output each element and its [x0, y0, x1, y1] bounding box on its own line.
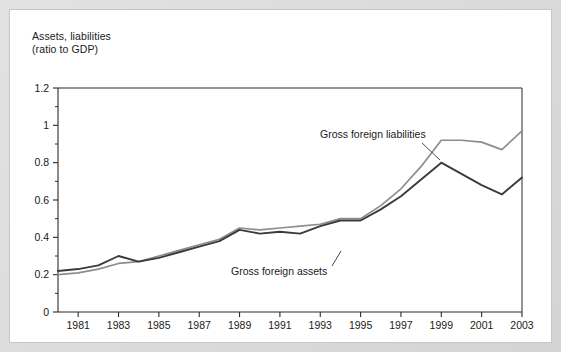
x-tick-label: 1993 — [309, 319, 333, 331]
x-tick-label: 1989 — [228, 319, 252, 331]
x-axis-ticks — [78, 312, 522, 317]
series-line-gross-foreign-liabilities — [58, 131, 522, 275]
x-tick-label: 1981 — [66, 319, 90, 331]
x-tick-label: 1987 — [188, 319, 212, 331]
y-tick-label: 1.2 — [34, 82, 49, 94]
y-tick-label: 1 — [43, 119, 49, 131]
x-tick-label: 2003 — [510, 319, 534, 331]
y-tick-label: 0.6 — [34, 194, 49, 206]
line-chart: 00.20.40.60.811.2 1981198319851987198919… — [10, 10, 551, 342]
annotation-leader-assets — [332, 251, 341, 266]
figure-card: Assets, liabilities(ratio to GDP) 00.20.… — [10, 10, 551, 342]
y-tick-label: 0.8 — [34, 156, 49, 168]
x-tick-label: 2001 — [470, 319, 494, 331]
annotation-label-gross-foreign-liabilities: Gross foreign liabilities — [320, 128, 426, 140]
x-tick-label: 1991 — [268, 319, 292, 331]
series-line-gross-foreign-assets — [58, 163, 522, 271]
y-tick-label: 0.4 — [34, 231, 49, 243]
y-axis-tick-labels: 00.20.40.60.811.2 — [34, 82, 49, 318]
x-tick-label: 1995 — [349, 319, 373, 331]
x-tick-label: 1997 — [389, 319, 413, 331]
y-axis-major-ticks — [53, 88, 58, 312]
y-tick-label: 0.2 — [34, 268, 49, 280]
x-tick-label: 1983 — [107, 319, 131, 331]
x-axis-tick-labels: 1981198319851987198919911993199519971999… — [66, 319, 533, 331]
y-tick-label: 0 — [43, 306, 49, 318]
x-tick-label: 1999 — [430, 319, 454, 331]
x-tick-label: 1985 — [147, 319, 171, 331]
figure-outer-frame: Assets, liabilities(ratio to GDP) 00.20.… — [0, 0, 561, 352]
annotation-label-gross-foreign-assets: Gross foreign assets — [231, 265, 327, 277]
